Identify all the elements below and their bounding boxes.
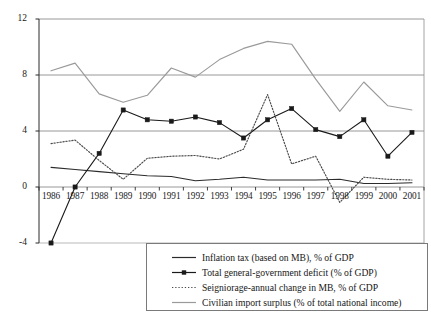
- legend: Inflation tax (based on MB), % of GDPTot…: [146, 243, 428, 311]
- y-axis-tick-0: 0: [5, 182, 27, 192]
- legend-item-1: Total general-government deficit (% of G…: [147, 265, 377, 280]
- legend-swatch-solid-dark-line-icon: [171, 252, 197, 263]
- series-1-marker-14: [386, 154, 390, 158]
- series-1-marker-9: [265, 118, 269, 122]
- legend-label: Total general-government deficit (% of G…: [202, 268, 377, 278]
- series-line-0: [51, 167, 412, 183]
- series-line-3: [51, 41, 412, 111]
- y-axis-tick-8: 8: [5, 70, 27, 80]
- legend-swatch-solid-gray-line-icon: [171, 297, 197, 308]
- y-axis-tick-12: 12: [5, 14, 27, 24]
- series-1-marker-8: [241, 136, 245, 140]
- y-axis-tick-minus-4: -4: [5, 238, 27, 248]
- series-1-marker-15: [410, 130, 414, 134]
- legend-label: Seigniorage-annual change in MB, % of GD…: [202, 283, 378, 293]
- series-1-marker-5: [169, 119, 173, 123]
- y-axis-tick-4: 4: [5, 126, 27, 136]
- line-chart: 12 8 4 0 -4 1986198719881989199019911992…: [0, 0, 431, 314]
- series-line-1: [51, 109, 412, 243]
- series-1-marker-0: [49, 241, 53, 245]
- series-1-marker-10: [290, 107, 294, 111]
- series-1-marker-12: [338, 135, 342, 139]
- series-1-marker-11: [314, 128, 318, 132]
- series-1-marker-4: [145, 118, 149, 122]
- legend-item-0: Inflation tax (based on MB), % of GDP: [147, 250, 354, 265]
- series-1-marker-6: [193, 115, 197, 119]
- series-1-marker-13: [362, 118, 366, 122]
- series-1-marker-1: [73, 185, 77, 189]
- legend-label: Civilian import surplus (% of total nati…: [202, 298, 402, 308]
- legend-swatch-dotted-line-icon: [171, 282, 197, 293]
- series-line-2: [51, 95, 412, 203]
- series-1-marker-2: [97, 151, 101, 155]
- legend-item-3: Civilian import surplus (% of total nati…: [147, 295, 402, 310]
- series-1-marker-7: [217, 121, 221, 125]
- series-1-marker-3: [121, 108, 125, 112]
- legend-item-2: Seigniorage-annual change in MB, % of GD…: [147, 280, 378, 295]
- legend-label: Inflation tax (based on MB), % of GDP: [202, 253, 354, 263]
- legend-swatch-solid-dark-line-with-square-marker-icon: [171, 267, 197, 278]
- x-axis-tick-2001: 2001: [396, 192, 428, 201]
